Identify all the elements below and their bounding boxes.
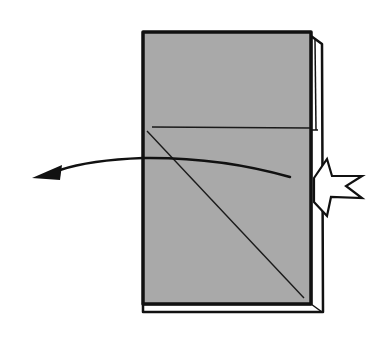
origami-diagram — [0, 0, 380, 361]
horizontal-crease — [152, 127, 310, 128]
paper-front — [143, 32, 311, 304]
push-starburst-icon — [314, 159, 362, 216]
